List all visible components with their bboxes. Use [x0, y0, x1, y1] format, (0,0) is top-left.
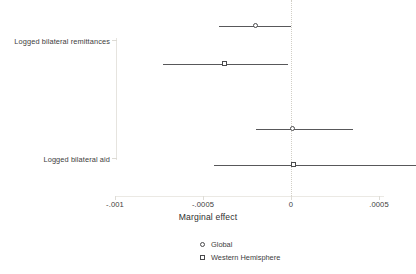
legend-entry-global: Global — [0, 238, 416, 251]
estimate-remittances-global — [0, 21, 416, 32]
estimate-remittances-western-hemisphere — [0, 59, 416, 70]
legend: Global Western Hemisphere — [0, 238, 416, 264]
x-axis-spine — [116, 196, 384, 197]
confidence-interval-bar — [214, 165, 416, 166]
x-axis-tick-label-0: -.001 — [106, 200, 124, 209]
category-axis-tick-remittances — [112, 40, 117, 41]
legend-marker-square-icon — [200, 255, 205, 260]
point-estimate-marker-square — [291, 162, 296, 167]
x-axis-title: Marginal effect — [0, 212, 416, 222]
x-axis-tick-label-3: .0005 — [369, 200, 389, 209]
category-axis-tick-aid — [112, 158, 117, 159]
coefficient-plot: Logged bilateral remittances Logged bila… — [0, 0, 416, 274]
category-axis-spine — [116, 38, 117, 160]
point-estimate-marker-square — [222, 61, 227, 66]
legend-entry-western-hemisphere: Western Hemisphere — [0, 251, 416, 264]
x-axis-tick-label-2: 0 — [289, 200, 293, 209]
x-axis-tick-label-1: -.0005 — [192, 200, 214, 209]
point-estimate-marker-circle — [253, 23, 258, 28]
point-estimate-marker-circle — [290, 126, 295, 131]
category-label-remittances: Logged bilateral remittances — [0, 37, 110, 46]
legend-label-global: Global — [211, 238, 232, 251]
estimate-aid-global — [0, 124, 416, 135]
estimate-aid-western-hemisphere — [0, 160, 416, 171]
confidence-interval-bar — [256, 129, 353, 130]
legend-label-western-hemisphere: Western Hemisphere — [211, 251, 280, 264]
legend-marker-circle-icon — [200, 242, 205, 247]
